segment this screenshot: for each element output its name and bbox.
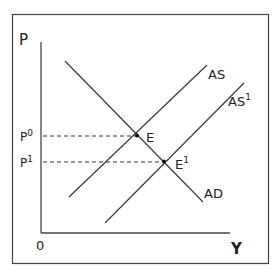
as1-curve <box>105 83 244 223</box>
diagram-frame <box>13 15 269 264</box>
p1-label: P1 <box>20 154 33 170</box>
ad-label: AD <box>204 186 223 201</box>
x-axis-label: Y <box>230 240 243 258</box>
as1-label: AS1 <box>228 92 251 109</box>
e1-label: E1 <box>175 155 189 172</box>
e-label: E <box>146 130 154 145</box>
y-axis-label: P <box>19 31 28 49</box>
p0-label: P0 <box>20 128 33 144</box>
origin-label: 0 <box>36 238 44 253</box>
as-label: AS <box>208 67 225 82</box>
as-ad-diagram: P Y 0 P0 P1 AS AS1 AD E E1 <box>0 0 279 271</box>
equilibrium-point-e1 <box>162 160 166 164</box>
equilibrium-point-e <box>135 134 139 138</box>
as-curve <box>69 65 207 197</box>
